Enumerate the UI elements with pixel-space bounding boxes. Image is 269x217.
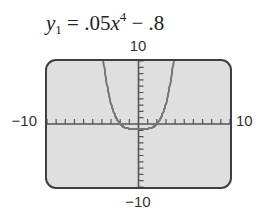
axes bbox=[47, 61, 230, 187]
ymin-label: −10 bbox=[124, 194, 152, 210]
equation-exponent: 4 bbox=[120, 9, 127, 24]
equation-constant: .8 bbox=[149, 11, 165, 35]
equation-minus: − bbox=[132, 11, 144, 35]
equation-var: x bbox=[110, 11, 119, 35]
equation-equals: = bbox=[67, 11, 79, 35]
equation-coefficient: .05 bbox=[84, 11, 110, 35]
xmin-label: −10 bbox=[3, 113, 37, 129]
graph-plot bbox=[47, 61, 230, 187]
calculator-screen bbox=[45, 59, 232, 189]
equation-lhs-var: y bbox=[46, 11, 55, 35]
equation-lhs-subscript: 1 bbox=[55, 22, 62, 37]
ymax-label: 10 bbox=[128, 38, 148, 54]
xmax-label: 10 bbox=[236, 113, 253, 129]
